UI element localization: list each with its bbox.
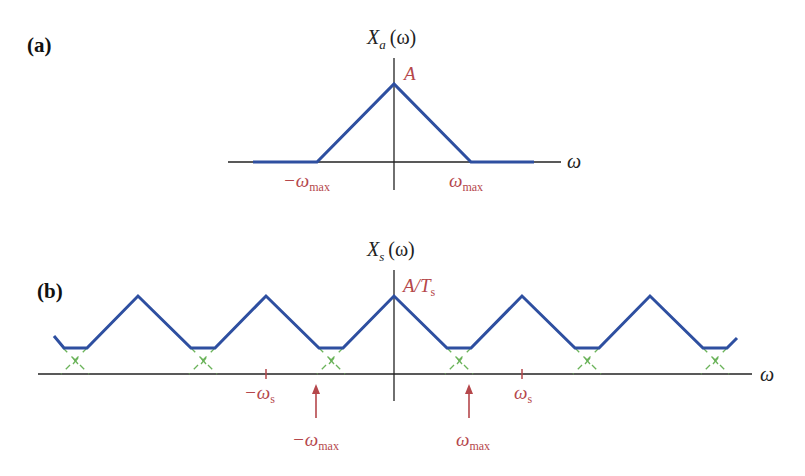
wmax-arrow: [465, 384, 473, 418]
panel-a-label: (a): [27, 33, 52, 57]
panel-a-x-title: ω: [567, 150, 581, 172]
panel-b-ws-label: ωs: [514, 382, 532, 406]
panel-b-neg-wmax-label: −ωmax: [292, 429, 339, 453]
panel-a: (a) Xa(ω) A ω −ωmax ωmax: [27, 26, 581, 194]
aliasing-cross-marks: [73, 358, 718, 364]
panel-b-y-title: Xs(ω): [366, 238, 415, 264]
sampling-spectrum-diagram: (a) Xa(ω) A ω −ωmax ωmax (b): [0, 0, 805, 476]
panel-b-x-title: ω: [760, 363, 774, 385]
panel-b-neg-ws-label: −ωs: [244, 382, 275, 406]
panel-b-label: (b): [37, 279, 63, 303]
panel-b-wmax-label: ωmax: [456, 429, 490, 453]
panel-a-y-title: Xa(ω): [366, 26, 416, 52]
panel-a-neg-wmax-label: −ωmax: [283, 170, 330, 194]
panel-a-wmax-label: ωmax: [449, 170, 483, 194]
panel-b: (b): [37, 238, 774, 453]
panel-b-peak-label: A/Ts: [401, 275, 435, 299]
panel-a-peak-label: A: [402, 63, 416, 84]
panel-b-spectrum-line: [54, 296, 737, 348]
aliasing-overlap-dashes: [61, 348, 729, 374]
neg-wmax-arrow: [312, 384, 320, 418]
